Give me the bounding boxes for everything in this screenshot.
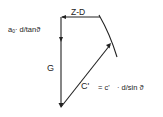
force-polygon-diagram [0, 0, 163, 117]
c-prime-vector-line [61, 45, 110, 107]
g-label: G [47, 64, 54, 73]
c-prime-label: C' [81, 82, 89, 91]
c-prime-equals: = c' [98, 84, 110, 92]
c-prime-formula: · d/sin ϑ [117, 84, 144, 92]
a0-arrowhead-icon [59, 37, 63, 42]
a0-formula: · d/tanϑ [15, 25, 40, 34]
zd-arrowhead-icon [61, 15, 66, 19]
a0-label: a0· d/tanϑ [8, 26, 40, 34]
zd-label: Z-D [71, 8, 85, 17]
failure-curve [99, 15, 117, 57]
